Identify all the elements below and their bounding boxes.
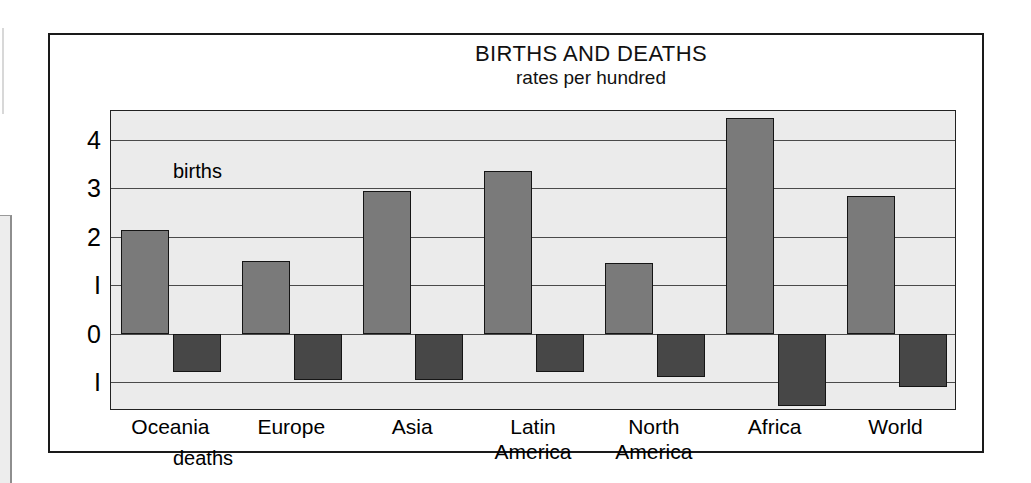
bar-deaths: [899, 334, 947, 387]
y-axis-tick-label: 2: [87, 224, 101, 249]
category-label-line: Oceania: [131, 415, 209, 440]
category-label: Oceania: [131, 415, 209, 440]
bar-births: [242, 261, 290, 334]
category-label: LatinAmerica: [494, 415, 571, 465]
chart-title: BIRTHS AND DEATHS: [200, 42, 982, 67]
category-label-line: North: [615, 415, 692, 440]
scan-artifact-line: [2, 28, 4, 114]
chart-figure-frame: BIRTHS AND DEATHS rates per hundred 432I…: [48, 33, 984, 453]
category-label: Europe: [257, 415, 325, 440]
y-axis-tick-label: 3: [87, 176, 101, 201]
category-label-layer: OceaniaEuropeAsiaLatinAmericaNorthAmeric…: [110, 415, 956, 475]
plot-area: 432I0I births deaths: [110, 110, 956, 410]
category-label: World: [868, 415, 922, 440]
y-axis-tick-label: 4: [87, 128, 101, 153]
category-label-line: Africa: [748, 415, 802, 440]
bar-births: [605, 263, 653, 333]
bar-births: [121, 230, 169, 334]
bar-deaths: [415, 334, 463, 380]
category-label: NorthAmerica: [615, 415, 692, 465]
annotation-births: births: [173, 161, 222, 181]
y-axis-tick-label: I: [94, 273, 101, 298]
category-label-line: America: [494, 440, 571, 465]
category-label-line: Latin: [494, 415, 571, 440]
category-label-line: Asia: [392, 415, 433, 440]
bar-births: [726, 118, 774, 333]
category-label: Africa: [748, 415, 802, 440]
bar-deaths: [778, 334, 826, 407]
scan-artifact-box: [0, 215, 12, 483]
bar-births: [484, 171, 532, 333]
bar-deaths: [173, 334, 221, 373]
bar-births: [847, 196, 895, 334]
chart-subtitle: rates per hundred: [200, 67, 982, 88]
category-label-line: America: [615, 440, 692, 465]
bar-deaths: [294, 334, 342, 380]
category-label-line: Europe: [257, 415, 325, 440]
bar-deaths: [657, 334, 705, 378]
category-label: Asia: [392, 415, 433, 440]
bar-births: [363, 191, 411, 334]
bars-layer: [111, 111, 955, 409]
category-label-line: World: [868, 415, 922, 440]
y-axis-tick-label: 0: [87, 321, 101, 346]
bar-deaths: [536, 334, 584, 373]
title-block: BIRTHS AND DEATHS rates per hundred: [50, 42, 982, 88]
y-axis-tick-label: I: [94, 369, 101, 394]
